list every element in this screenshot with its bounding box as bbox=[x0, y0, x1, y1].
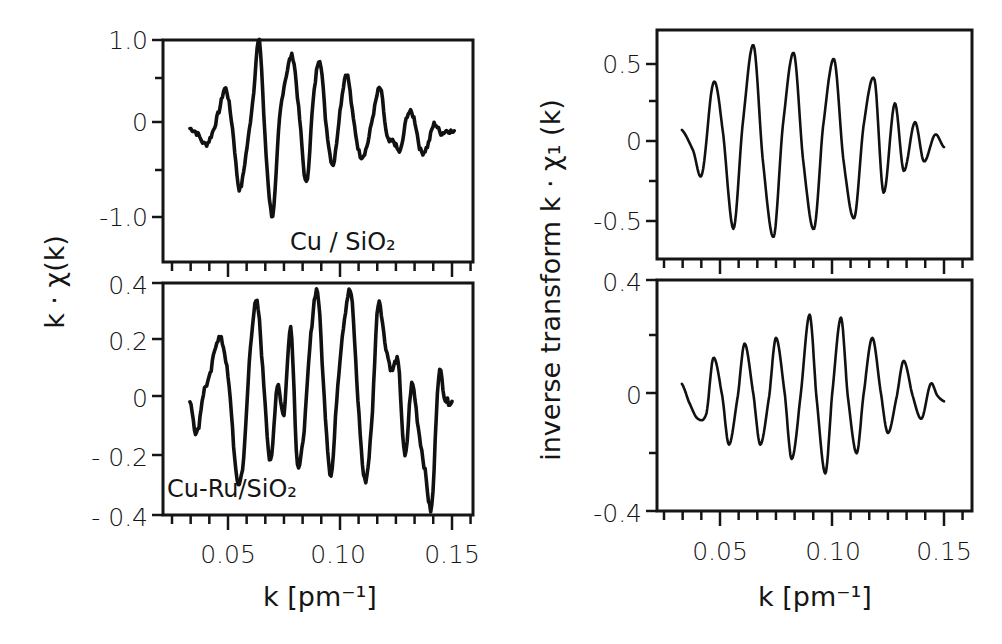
panel-top-right: 0.5 0 -0.5 bbox=[593, 30, 972, 274]
x-tick-label: 0.15 bbox=[424, 540, 480, 569]
y-ticks bbox=[646, 64, 657, 221]
data-trace bbox=[190, 39, 454, 216]
x-ticks bbox=[664, 511, 963, 526]
panel-bottom-left: 0.4 0.2 0 - 0.2 - 0.4 0.05 0.10 0.15 Cu-… bbox=[91, 271, 480, 569]
y-tick-label: -0.5 bbox=[593, 207, 642, 236]
left-y-axis-title: k · χ(k) bbox=[39, 235, 70, 329]
y-tick-label: -1.0 bbox=[99, 203, 148, 232]
y-tick-label: 0 bbox=[626, 381, 642, 410]
y-ticks bbox=[152, 283, 163, 515]
left-x-axis-title: k [pm⁻¹] bbox=[263, 581, 377, 612]
y-tick-label: 0 bbox=[132, 384, 148, 413]
panel-frame bbox=[657, 280, 972, 511]
x-tick-label: 0.10 bbox=[310, 540, 366, 569]
panel-bottom-right: 0.4 0 -0.4 0.05 0.10 0.15 bbox=[593, 268, 972, 566]
y-tick-label: 0.2 bbox=[108, 327, 148, 356]
y-tick-label: 0 bbox=[132, 108, 148, 137]
y-tick-label: 0.4 bbox=[108, 271, 148, 300]
y-tick-label: - 0.2 bbox=[91, 443, 148, 472]
x-ticks bbox=[172, 262, 471, 277]
y-tick-label: -0.4 bbox=[593, 499, 642, 528]
data-trace bbox=[682, 315, 944, 474]
x-ticks bbox=[172, 515, 471, 530]
x-tick-label: 0.05 bbox=[200, 540, 256, 569]
x-tick-label: 0.05 bbox=[692, 537, 748, 566]
right-y-axis-title: inverse transform k · χ₁ (k) bbox=[535, 99, 566, 461]
y-tick-label: 0 bbox=[626, 127, 642, 156]
y-tick-label: 1.0 bbox=[108, 26, 148, 55]
y-tick-label: 0.4 bbox=[602, 268, 642, 297]
y-tick-label: - 0.4 bbox=[91, 503, 148, 532]
y-tick-label: 0.5 bbox=[602, 50, 642, 79]
panel-top-left: 1.0 0 -1.0 Cu / SiO₂ bbox=[99, 26, 473, 277]
exafs-figure: k · χ(k) 1.0 0 -1.0 Cu / SiO₂ 0.4 0.2 bbox=[0, 0, 1002, 644]
y-ticks bbox=[646, 280, 657, 511]
x-ticks bbox=[664, 259, 963, 274]
x-tick-label: 0.15 bbox=[916, 537, 972, 566]
y-ticks bbox=[152, 40, 163, 217]
sample-label-cu-sio2: Cu / SiO₂ bbox=[290, 228, 396, 256]
data-trace bbox=[682, 45, 944, 237]
x-tick-label: 0.10 bbox=[805, 537, 861, 566]
right-x-axis-title: k [pm⁻¹] bbox=[758, 581, 872, 612]
sample-label-cu-ru-sio2: Cu-Ru/SiO₂ bbox=[167, 475, 297, 503]
